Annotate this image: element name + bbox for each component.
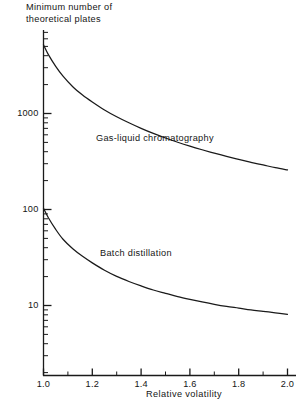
chart-plot-area (0, 0, 307, 411)
y-axis-tick-label: 100 (0, 204, 39, 214)
x-axis-tick-label: 1.2 (72, 379, 112, 389)
figure-container: Minimum number of theoretical plates 101… (0, 0, 307, 411)
x-axis-tick-label: 1.0 (24, 379, 64, 389)
y-axis-ticks (44, 32, 52, 372)
axis-lines (43, 30, 296, 376)
x-axis-tick-label: 2.0 (268, 379, 308, 389)
y-axis-tick-label: 1000 (0, 108, 39, 118)
x-axis-tick-label: 1.4 (121, 379, 161, 389)
x-axis-ticks (44, 369, 288, 376)
x-axis-caption: Relative volatility (146, 389, 222, 399)
curve-gas-liquid-chromatography (44, 45, 288, 170)
x-axis-tick-label: 1.6 (170, 379, 210, 389)
curve-label-batch-distillation: Batch distillation (100, 248, 172, 258)
curve-label-gas-liquid-chromatography: Gas-liquid chromatography (96, 133, 214, 143)
curve-batch-distillation (44, 208, 288, 314)
x-axis-tick-label: 1.8 (219, 379, 259, 389)
y-axis-tick-label: 10 (0, 300, 39, 310)
